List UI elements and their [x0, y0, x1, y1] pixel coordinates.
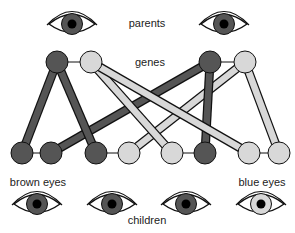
child-1-gene-dominant: [40, 142, 62, 164]
child-4-gene-recessive: [268, 142, 290, 164]
child-4-eye-icon: [236, 192, 286, 215]
parent-2-eye-icon: [199, 12, 249, 35]
inheritance-link: [245, 62, 279, 153]
child-3-gene-recessive: [161, 142, 183, 164]
child-1-gene-dominant: [11, 142, 33, 164]
inheritance-link: [22, 62, 57, 153]
child-4-pupil: [257, 200, 266, 209]
child-3-eye-icon: [161, 192, 211, 215]
diagram-canvas: parents genes brown eyes blue eyes child…: [0, 0, 295, 233]
child-3-gene-dominant: [194, 142, 216, 164]
parents-label: parents: [129, 17, 166, 29]
blue-eyes-label: blue eyes: [238, 176, 286, 188]
child-2-gene-recessive: [118, 142, 140, 164]
child-1-pupil: [33, 200, 42, 209]
inheritance-diagram: parents genes brown eyes blue eyes child…: [0, 0, 295, 233]
parent-2-gene-recessive: [234, 51, 256, 73]
brown-eyes-label: brown eyes: [10, 176, 67, 188]
child-2-pupil: [108, 200, 117, 209]
parent-1-gene-recessive: [80, 51, 102, 73]
genes-label: genes: [135, 56, 165, 68]
child-2-gene-dominant: [85, 142, 107, 164]
parent-1-gene-dominant: [46, 51, 68, 73]
children-label: children: [128, 214, 167, 226]
parent-2-gene-dominant: [199, 51, 221, 73]
child-1-eye-icon: [12, 192, 62, 215]
parent-2-pupil: [220, 20, 229, 29]
parent-1-eye-icon: [47, 12, 97, 35]
inheritance-link: [91, 62, 172, 153]
child-4-gene-recessive: [238, 142, 260, 164]
parent-1-pupil: [68, 20, 77, 29]
child-2-eye-icon: [87, 192, 137, 215]
child-3-pupil: [182, 200, 191, 209]
